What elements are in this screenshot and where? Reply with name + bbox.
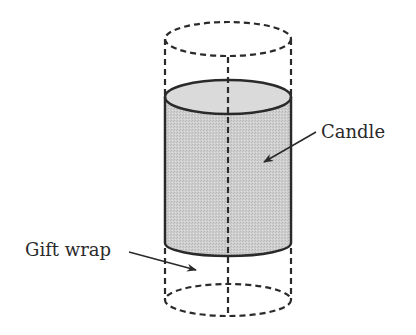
candle-label: Candle	[321, 121, 385, 142]
gift-wrap-label: Gift wrap	[25, 239, 111, 260]
gift-wrap-arrow	[129, 252, 196, 270]
candle-gift-wrap-diagram: Candle Gift wrap	[0, 0, 416, 335]
gift-wrap-top-ellipse	[165, 22, 291, 56]
